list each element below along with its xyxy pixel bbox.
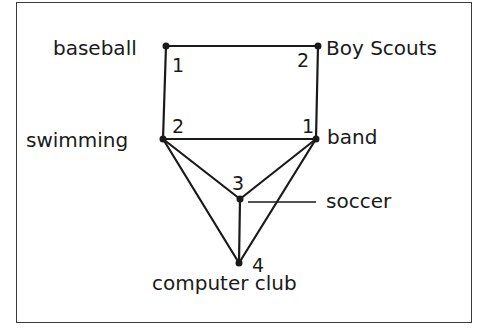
node-boy-scouts [315,43,322,50]
edge-baseball-swimming [163,46,166,139]
label-soccer: soccer [326,191,391,211]
edge-band-soccer [240,139,316,199]
node-computer-club [236,260,243,267]
label-computer-club: computer club [152,273,297,293]
color-number-soccer: 3 [232,174,244,193]
label-band: band [327,127,377,147]
node-baseball [163,43,170,50]
node-swimming [160,136,167,143]
edge-boyscouts-band [316,46,318,139]
node-soccer [237,196,244,203]
edge-band-computerclub [239,139,316,263]
label-boy-scouts: Boy Scouts [326,38,437,58]
color-number-computer-club: 4 [252,256,264,275]
edge-soccer-computerclub [239,199,240,263]
color-number-swimming: 2 [172,117,184,136]
label-baseball: baseball [53,38,137,58]
edge-swimming-computerclub [163,139,239,263]
color-number-band: 1 [302,117,314,136]
edge-swimming-soccer [163,139,240,199]
label-swimming: swimming [26,130,128,150]
color-number-baseball: 1 [172,56,184,75]
color-number-boy-scouts: 2 [297,51,309,70]
